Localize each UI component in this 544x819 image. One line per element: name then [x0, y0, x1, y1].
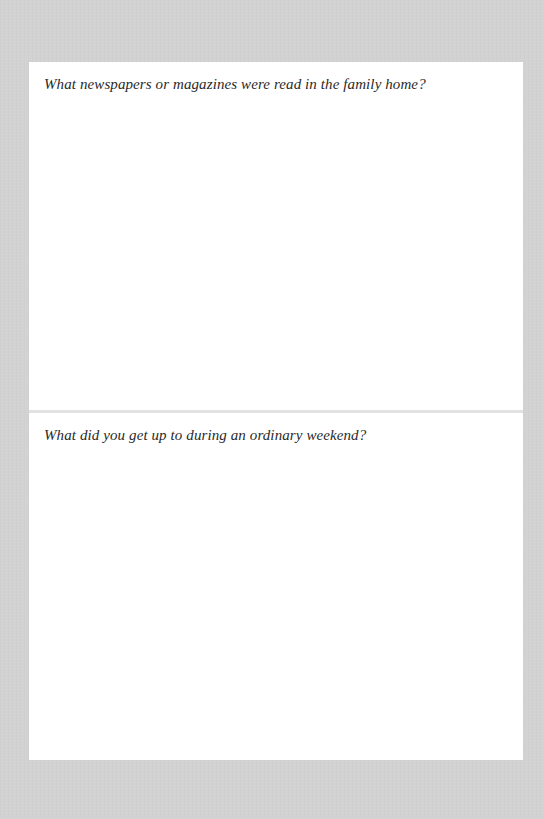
answer-area[interactable]: [44, 106, 508, 400]
question-panel-newspapers: What newspapers or magazines were read i…: [29, 62, 523, 410]
answer-area[interactable]: [44, 457, 508, 750]
journal-page: What newspapers or magazines were read i…: [29, 62, 523, 760]
question-panel-weekend: What did you get up to during an ordinar…: [29, 413, 523, 760]
question-label: What did you get up to during an ordinar…: [44, 427, 366, 444]
question-label: What newspapers or magazines were read i…: [44, 76, 426, 93]
